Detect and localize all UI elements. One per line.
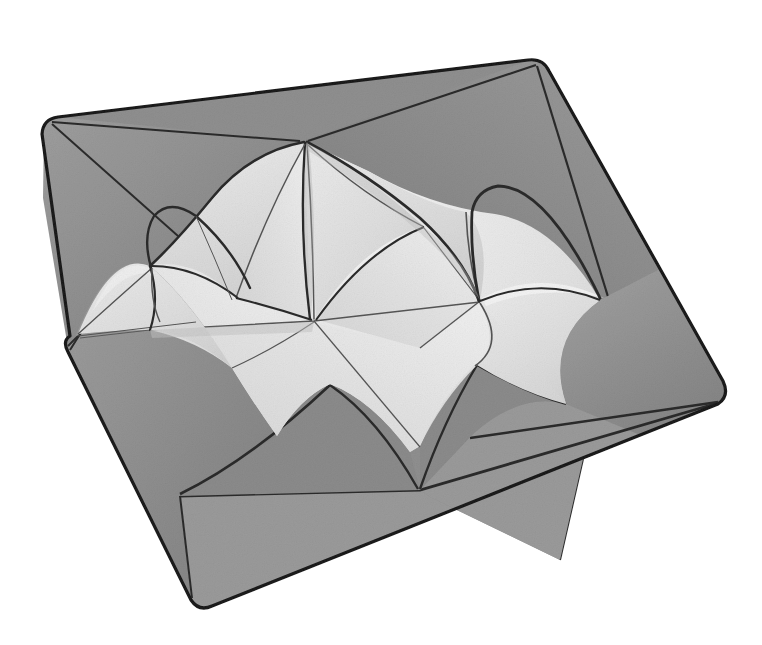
origami-model-illustration (0, 0, 762, 645)
render-canvas: Curved-crease origami sculpture render f… (0, 0, 762, 645)
